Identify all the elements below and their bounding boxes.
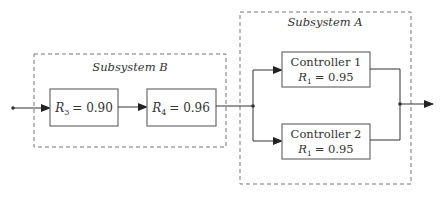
block-r4: R4= 0.96: [147, 89, 216, 126]
wire-split-controller-1: [253, 70, 282, 106]
controller-2-reliability: R1= 0.95: [297, 142, 353, 158]
block-controller-1: Controller 1 R1= 0.95: [282, 52, 370, 87]
wire-controller-1-merge: [370, 69, 400, 104]
block-r3: R3= 0.90: [50, 89, 118, 126]
block-controller-2: Controller 2 R1= 0.95: [282, 124, 370, 159]
wire-split-controller-2: [253, 106, 282, 141]
block-r3-label: R3= 0.90: [54, 101, 113, 117]
reliability-diagram: Subsystem B Subsystem A R3= 0.90 R4= 0.9…: [0, 0, 442, 197]
subsystem-a-label: Subsystem A: [287, 15, 362, 29]
wire-controller-2-merge: [370, 104, 400, 140]
controller-1-reliability: R1= 0.95: [297, 70, 353, 86]
controller-2-title: Controller 2: [291, 127, 362, 141]
subsystem-b-label: Subsystem B: [92, 60, 167, 74]
block-r4-label: R4= 0.96: [151, 101, 210, 117]
controller-1-title: Controller 1: [291, 55, 362, 69]
